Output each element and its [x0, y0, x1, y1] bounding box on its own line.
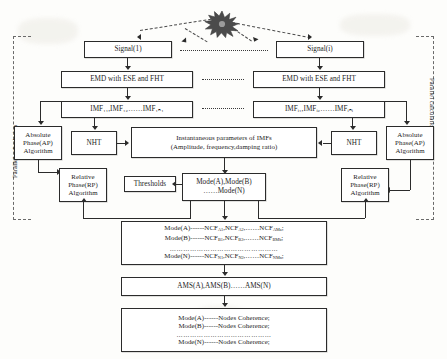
instantaneous-parameters-box[interactable]: Instantaneous parameters of IMFs (Amplit…	[131, 127, 317, 158]
emd-ellipsis-link	[202, 79, 244, 80]
coherence-line-dots: ……………………………………	[176, 331, 271, 338]
relative-phase-box-right[interactable]: Relative Phase(RP) Algorithm	[341, 168, 389, 202]
connector-ap-rp-left-h	[38, 172, 58, 173]
ap-right-line-3: Algorithm	[395, 147, 424, 155]
burst-arrow-head-right	[308, 34, 312, 40]
connector-mode-rp-right-h	[258, 218, 365, 219]
arrowhead-imf-nht-right	[350, 126, 356, 130]
connector-mode-ncf	[224, 201, 225, 217]
burst-arrow-line-left	[140, 19, 211, 31]
imf-box-left[interactable]: IMF₁₁,IMF₁₂……IMF₁ₙ₁	[61, 101, 193, 118]
signal-box-left[interactable]: Signal(1)	[84, 41, 172, 58]
ap-left-line-1: Absolute	[25, 131, 50, 139]
ap-right-line-2: Phase(AP)	[395, 139, 425, 147]
signal-left-label: Signal(1)	[114, 45, 141, 54]
nht-right-label: NHT	[347, 139, 362, 148]
arrowhead-mode-rp-left	[81, 198, 87, 202]
signal-right-label: Signal(i)	[307, 45, 333, 54]
coherence-line-1: Mode(A)------Nodes Coherence;	[178, 314, 270, 322]
ap-right-line-1: Absolute	[397, 131, 422, 139]
coherence-line-2: Mode(B)------Nodes Coherence;	[178, 322, 269, 330]
connector-ap-rp-right-v	[410, 160, 411, 190]
thresholds-label: Thresholds	[134, 180, 166, 189]
signal-ellipsis-link	[180, 50, 268, 51]
ncf-line-1: Mode(A)------NCFA1,NCFA2,……NCFAMa;	[164, 224, 283, 234]
arrowhead-nht-inst-left	[125, 140, 129, 146]
arrowhead-emd-imf-left	[125, 96, 131, 100]
arrowhead-signal-emd-left	[125, 66, 131, 70]
arrowhead-imf-nht-left	[92, 126, 98, 130]
nht-box-right[interactable]: NHT	[331, 131, 377, 155]
burst-arrow-head-inner-left	[181, 38, 188, 45]
ncf-line-dots: …………………………………………	[170, 245, 279, 252]
coherence-line-4: Mode(N)------Nodes Coherence;	[178, 338, 270, 346]
connector-mode-rp-right-v	[258, 201, 259, 218]
paper-smudge	[340, 14, 410, 36]
arrowhead-mode-rp-right	[363, 198, 369, 202]
absolute-phase-box-left[interactable]: Absolute Phase(AP) Algorithm	[14, 126, 62, 160]
emd-box-right[interactable]: EMD with ESE and FHT	[253, 71, 385, 88]
modes-line-1: Mode(A),Mode(B)	[196, 178, 252, 187]
connector-nht-inst-right	[323, 143, 331, 144]
instantaneous-line-2: (Amplitude, frequency,damping ratio)	[171, 143, 278, 151]
connector-ap-rp-right-h	[390, 190, 410, 191]
flowchart-canvas: Parallel calculation Parallel calculatio…	[0, 0, 447, 359]
rp-left-line-2: Phase(RP)	[68, 181, 98, 189]
burst-arrow-head-left	[137, 34, 141, 40]
parallel-calculation-label-right: Parallel calculation	[429, 78, 436, 131]
arrowhead-mode-ncf	[222, 216, 228, 220]
ncf-line-2: Mode(B)------NCFB1,NCFB2,……NCFBMb;	[165, 234, 284, 244]
imf-left-label: IMF₁₁,IMF₁₂……IMF₁ₙ₁	[90, 105, 164, 114]
emd-right-label: EMD with ESE and FHT	[282, 75, 356, 84]
connector-mode-rp-left-v	[190, 201, 191, 218]
relative-phase-box-left[interactable]: Relative Phase(RP) Algorithm	[59, 168, 107, 202]
ap-left-line-2: Phase(AP)	[23, 139, 53, 147]
connector-ap-rp-left-v	[38, 160, 39, 172]
starburst-source-icon	[204, 10, 240, 38]
arrowhead-ams-coherence	[222, 303, 228, 307]
connector-mode-rp-left-up	[83, 202, 84, 218]
connector-imf-ap-left-h	[40, 101, 62, 102]
ap-left-line-3: Algorithm	[23, 147, 52, 155]
rp-right-line-1: Relative	[353, 173, 376, 181]
connector-mode-rp-right-up	[365, 202, 366, 218]
connector-mode-rp-left-h	[83, 218, 191, 219]
arrowhead-emd-imf-right	[317, 96, 323, 100]
arrowhead-nht-inst-right	[318, 140, 322, 146]
modes-line-2: ……Mode(N)	[203, 187, 245, 196]
nodes-coherence-box[interactable]: Mode(A)------Nodes Coherence; Mode(B)---…	[121, 308, 327, 352]
rp-left-line-1: Relative	[71, 173, 94, 181]
arrowhead-imf-ap-right	[404, 121, 410, 125]
arrowhead-ncf-ams	[222, 272, 228, 276]
ams-label: AMS(A),AMS(B)……AMS(N)	[177, 282, 271, 291]
thresholds-box[interactable]: Thresholds	[124, 176, 176, 192]
ams-box[interactable]: AMS(A),AMS(B)……AMS(N)	[121, 277, 327, 296]
connector-mode-thresholds	[176, 184, 183, 185]
rp-right-line-3: Algorithm	[350, 189, 379, 197]
arrowhead-signal-emd-right	[317, 66, 323, 70]
rp-left-line-3: Algorithm	[68, 189, 97, 197]
arrowhead-mode-thresholds	[172, 181, 176, 187]
connector-imf-ap-left-v	[40, 101, 41, 122]
modes-box[interactable]: Mode(A),Mode(B) ……Mode(N)	[182, 173, 266, 201]
absolute-phase-box-right[interactable]: Absolute Phase(AP) Algorithm	[386, 126, 434, 160]
nht-left-label: NHT	[87, 139, 102, 148]
signal-box-right[interactable]: Signal(i)	[276, 41, 364, 58]
connector-imf-ap-right-v	[406, 101, 407, 122]
ncf-line-4: Mode(N)------NCFN1,NCFN2,……NCFNMn;	[164, 252, 284, 262]
arrowhead-imf-ap-left	[38, 121, 44, 125]
imf-right-label: IMFᵢ₁,IMFᵢ₂……IMFᵢₙᵢ	[285, 105, 353, 114]
emd-box-left[interactable]: EMD with ESE and FHT	[61, 71, 193, 88]
emd-left-label: EMD with ESE and FHT	[90, 75, 164, 84]
connector-imf-ap-right-h	[385, 101, 407, 102]
burst-arrow-head-inner-right	[251, 37, 258, 43]
imf-box-right[interactable]: IMFᵢ₁,IMFᵢ₂……IMFᵢₙᵢ	[253, 101, 385, 118]
imf-ellipsis-link	[202, 108, 244, 109]
ncf-decomposition-box[interactable]: Mode(A)------NCFA1,NCFA2,……NCFAMa; Mode(…	[121, 221, 327, 265]
rp-right-line-2: Phase(RP)	[350, 181, 380, 189]
instantaneous-line-1: Instantaneous parameters of IMFs	[176, 134, 272, 142]
nht-box-left[interactable]: NHT	[71, 131, 117, 155]
